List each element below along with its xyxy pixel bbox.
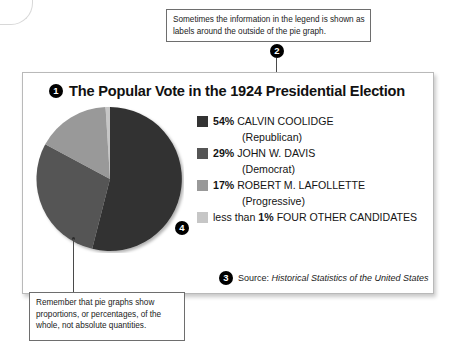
legend-swatch-other xyxy=(197,212,208,223)
legend-value-lafollette: 17% xyxy=(213,179,234,191)
legend-swatch-lafollette xyxy=(197,180,208,191)
marker-1: 1 xyxy=(49,84,63,98)
legend-label-davis: 29% JOHN W. DAVIS xyxy=(213,147,315,160)
source-label: Source: xyxy=(238,273,269,283)
legend-swatch-coolidge xyxy=(197,116,208,127)
source-title: Historical Statistics of the United Stat… xyxy=(272,273,429,283)
legend-value-other: 1% xyxy=(258,211,273,223)
callout-proportions-note-text: Remember that pie graphs show proportion… xyxy=(36,297,179,332)
chart-panel: 1 The Popular Vote in the 1924 President… xyxy=(22,72,434,294)
legend-item-other: less than 1% FOUR OTHER CANDIDATES xyxy=(197,211,425,226)
legend-swatch-davis xyxy=(197,148,208,159)
legend-label-lafollette: 17% ROBERT M. LAFOLLETTE xyxy=(213,179,365,192)
legend-label-other: less than 1% FOUR OTHER CANDIDATES xyxy=(213,211,417,224)
source-text: Source: Historical Statistics of the Uni… xyxy=(238,273,429,283)
callout-legend-note-text: Sometimes the information in the legend … xyxy=(173,14,365,37)
marker-2: 2 xyxy=(270,44,284,58)
legend-name-davis: JOHN W. DAVIS xyxy=(237,147,315,159)
pie-svg xyxy=(36,105,184,253)
legend-label-coolidge: 54% CALVIN COOLIDGE xyxy=(213,115,334,128)
legend-item-lafollette: 17% ROBERT M. LAFOLLETTE xyxy=(197,179,425,194)
legend-sublabel-davis: (Democrat) xyxy=(242,163,425,178)
legend-name-coolidge: CALVIN COOLIDGE xyxy=(237,115,333,127)
legend-sublabel-lafollette: (Progressive) xyxy=(242,195,425,210)
callout-proportions-note: Remember that pie graphs show proportion… xyxy=(29,292,185,341)
marker-3: 3 xyxy=(219,271,233,285)
pie-slices xyxy=(36,107,181,251)
legend-item-coolidge: 54% CALVIN COOLIDGE xyxy=(197,115,425,130)
legend-item-davis: 29% JOHN W. DAVIS xyxy=(197,147,425,162)
pie-chart xyxy=(36,105,184,253)
legend-sublabel-coolidge: (Republican) xyxy=(242,131,425,146)
page-corner-fold xyxy=(0,0,33,25)
legend-value-davis: 29% xyxy=(213,147,234,159)
marker-4: 4 xyxy=(175,221,189,235)
legend-prefix-other: less than xyxy=(213,211,258,223)
source-line: 3 Source: Historical Statistics of the U… xyxy=(219,271,429,285)
legend-value-coolidge: 54% xyxy=(213,115,234,127)
leader-line-bottom xyxy=(73,239,74,292)
callout-legend-note: Sometimes the information in the legend … xyxy=(166,9,371,42)
legend-name-other: FOUR OTHER CANDIDATES xyxy=(277,211,417,223)
chart-legend: 54% CALVIN COOLIDGE (Republican) 29% JOH… xyxy=(197,115,425,227)
legend-name-lafollette: ROBERT M. LAFOLLETTE xyxy=(237,179,365,191)
page-title: The Popular Vote in the 1924 Presidentia… xyxy=(69,83,405,99)
